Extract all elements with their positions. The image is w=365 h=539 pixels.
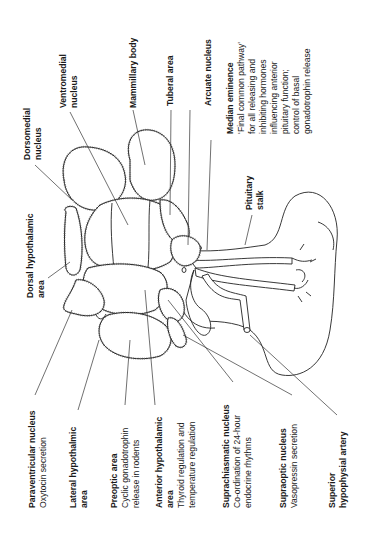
label-median-eminence: Median eminence ‘Final common pathway’ f…: [225, 42, 312, 134]
svg-text:Mammillary body: Mammillary body: [128, 38, 138, 108]
svg-text:temperature regulation: temperature regulation: [187, 421, 197, 508]
mammillary-body-shape: [128, 130, 175, 201]
svg-text:gonadotrophin release: gonadotrophin release: [302, 48, 312, 134]
svg-text:Tuberal area: Tuberal area: [165, 55, 175, 106]
svg-text:Anterior hypothalamic: Anterior hypothalamic: [154, 417, 164, 508]
label-dorsomedial: Dorsomedial nucleus: [22, 108, 43, 160]
svg-text:Vasopressin secretion: Vasopressin secretion: [289, 424, 299, 508]
svg-text:Lateral hypothalmic: Lateral hypothalmic: [68, 427, 78, 508]
svg-text:Supraoptic nucleus: Supraoptic nucleus: [278, 428, 288, 508]
label-preoptic-area: Preoptic area Cyclic gonadotrophin relea…: [109, 428, 141, 508]
pituitary-lobe-fold: [318, 222, 334, 250]
svg-text:pituitary function;: pituitary function;: [280, 69, 290, 134]
svg-text:Median eminence: Median eminence: [225, 62, 235, 134]
svg-text:Preoptic area: Preoptic area: [109, 453, 119, 508]
svg-text:for all releasing and: for all releasing and: [247, 59, 257, 134]
label-supraoptic-nucleus: Supraoptic nucleus Vasopressin secretion: [278, 424, 299, 508]
label-paraventricular-nucleus: Paraventricular nucleus Oxytocin secreti…: [27, 410, 48, 508]
anatomy-drawing: [63, 130, 337, 376]
label-suprachiasmatic-nucleus: Suprachiasmatic nucleus Co-ordination of…: [221, 404, 253, 508]
svg-text:Dorsal hypothalamic: Dorsal hypothalamic: [25, 213, 35, 298]
svg-text:Pituitary: Pituitary: [244, 175, 254, 210]
label-superior-hypophysial-artery: Superior hypophysial artery: [327, 431, 348, 508]
label-mammillary-body: Mammillary body: [128, 38, 138, 108]
svg-text:‘Final common pathway’: ‘Final common pathway’: [236, 42, 246, 134]
svg-text:area: area: [79, 490, 89, 508]
svg-text:nucleus: nucleus: [33, 127, 43, 160]
svg-text:Dorsomedial: Dorsomedial: [22, 108, 32, 160]
svg-text:Paraventricular nucleus: Paraventricular nucleus: [27, 410, 37, 508]
svg-text:area: area: [165, 490, 175, 508]
svg-text:Cyclic gonadotrophin: Cyclic gonadotrophin: [120, 428, 130, 508]
label-lateral-hypothalamic-area: Lateral hypothalmic area: [68, 427, 89, 508]
svg-text:Arcuate nucleus: Arcuate nucleus: [203, 39, 213, 106]
svg-text:nucleus: nucleus: [69, 75, 79, 108]
arcuate-shape: [171, 236, 201, 266]
label-anterior-hypothalamic-area: Anterior hypothalamic area Thyroid regul…: [154, 417, 197, 508]
svg-text:Superior: Superior: [327, 472, 337, 508]
svg-text:influencing anterior: influencing anterior: [269, 61, 279, 134]
hypothalamic-nuclei: [63, 130, 200, 359]
svg-text:Co-ordination of 24-hour: Co-ordination of 24-hour: [232, 415, 242, 508]
label-ventromedial: Ventromedial nucleus: [58, 54, 79, 108]
svg-text:stalk: stalk: [255, 190, 265, 210]
svg-text:area: area: [36, 280, 46, 298]
preoptic-shape: [99, 312, 171, 358]
svg-text:Thyroid regulation and: Thyroid regulation and: [176, 422, 186, 508]
label-dorsal-hypothalamic-area: Dorsal hypothalamic area: [25, 213, 46, 298]
label-arcuate-nucleus: Arcuate nucleus: [203, 39, 213, 106]
svg-text:endocrine rhythms: endocrine rhythms: [243, 437, 253, 508]
svg-text:Suprachiasmatic nucleus: Suprachiasmatic nucleus: [221, 404, 231, 508]
svg-text:Oxytocin secretion: Oxytocin secretion: [38, 437, 48, 508]
label-pituitary-stalk: Pituitary stalk: [244, 175, 265, 210]
suprachiasmatic-shape: [158, 288, 184, 321]
svg-text:Ventromedial: Ventromedial: [58, 54, 68, 108]
hypothalamus-diagram: Dorsomedial nucleus Ventromedial nucleus…: [0, 0, 365, 539]
svg-text:release in rodents: release in rodents: [131, 440, 141, 508]
svg-text:hypophysial artery: hypophysial artery: [338, 431, 348, 508]
label-tuberal-area: Tuberal area: [165, 55, 175, 106]
svg-text:inhibiting hormones: inhibiting hormones: [258, 59, 268, 134]
svg-text:control of basal: control of basal: [291, 76, 301, 134]
